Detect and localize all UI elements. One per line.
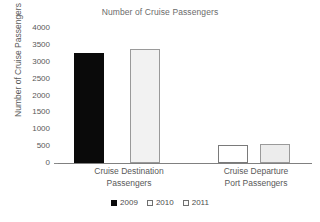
legend-item-2009[interactable]: 2009 [111,198,138,207]
chart-legend: 200920102011 [0,198,320,207]
x-axis-line [58,163,312,164]
bar-2011-group1 [260,144,290,163]
y-axis-tick-label: 1000 [0,125,50,133]
plot-area [58,28,312,163]
legend-item-2010[interactable]: 2010 [147,198,174,207]
legend-swatch-icon [183,200,189,206]
category-label-0: Cruise DestinationPassengers [69,166,189,189]
category-label-line: Port Passengers [196,178,316,190]
legend-swatch-icon [111,200,117,206]
y-axis-tick-label: 2000 [0,92,50,100]
y-axis-tick-label: 0 [0,159,50,167]
bar-2010-group1 [218,145,248,163]
y-axis-tick-label: 4000 [0,24,50,32]
chart-title: Number of Cruise Passengers [0,7,320,17]
y-axis-tick-label: 3000 [0,58,50,66]
y-axis-tick-mark [54,163,58,164]
legend-label: 2009 [120,198,138,207]
bar-chart: Number of Cruise Passengers Number of Cr… [0,0,320,222]
y-axis-tick-label: 500 [0,142,50,150]
y-axis-tick-label: 1500 [0,108,50,116]
legend-label: 2011 [192,198,209,207]
y-axis-tick-label: 3500 [0,41,50,49]
legend-swatch-icon [147,200,153,206]
category-label-line: Cruise Departure [196,166,316,178]
legend-label: 2010 [156,198,174,207]
bar-2010-group0 [130,49,160,163]
legend-item-2011[interactable]: 2011 [183,198,209,207]
category-label-1: Cruise DeparturePort Passengers [196,166,316,189]
x-axis-category-labels: Cruise DestinationPassengersCruise Depar… [58,166,312,192]
category-label-line: Passengers [69,178,189,190]
bar-2009-group0 [74,53,104,163]
category-label-line: Cruise Destination [69,166,189,178]
y-axis-tick-label: 2500 [0,75,50,83]
